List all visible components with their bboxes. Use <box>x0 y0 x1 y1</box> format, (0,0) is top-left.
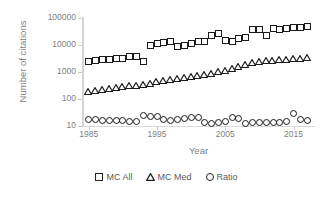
square-marker-icon <box>95 173 103 181</box>
x-tick-mark <box>89 126 90 130</box>
x-tick-mark <box>225 126 226 130</box>
y-tick-mark <box>78 18 82 19</box>
y-tick-label: 100 <box>62 94 76 103</box>
data-point-ratio <box>290 110 297 117</box>
y-tick-mark <box>78 72 82 73</box>
circle-marker-icon <box>206 173 214 181</box>
data-point-ratio <box>99 117 106 124</box>
data-point-ratio <box>304 117 311 124</box>
data-point-ratio <box>174 116 181 123</box>
legend-item-mc-all[interactable]: MC All <box>95 172 132 182</box>
x-tick-label: 2015 <box>274 129 314 139</box>
legend-label: MC All <box>106 172 132 182</box>
y-tick-mark <box>78 99 82 100</box>
y-tick-mark <box>78 126 82 127</box>
data-point-ratio <box>140 112 147 119</box>
x-tick-label: 1995 <box>137 129 177 139</box>
x-tick-mark <box>157 126 158 130</box>
data-point-ratio <box>147 113 154 120</box>
y-tick-mark <box>78 45 82 46</box>
data-point-ratio <box>215 119 222 126</box>
x-tick-mark <box>294 126 295 130</box>
data-point-mc-all <box>140 58 147 65</box>
y-tick-label: 10000 <box>52 40 76 49</box>
data-point-ratio <box>249 119 256 126</box>
data-point-ratio <box>256 119 263 126</box>
data-point-mc-all <box>304 23 311 30</box>
plot-area <box>82 18 314 126</box>
data-point-ratio <box>235 115 242 122</box>
legend-label: MC Med <box>157 172 191 182</box>
legend-item-ratio[interactable]: Ratio <box>206 172 238 182</box>
y-tick-label: 100000 <box>48 13 76 22</box>
data-point-ratio <box>297 116 304 123</box>
legend-label: Ratio <box>217 172 238 182</box>
data-point-ratio <box>106 117 113 124</box>
data-point-ratio <box>283 118 290 125</box>
legend-item-mc-med[interactable]: MC Med <box>146 172 191 182</box>
data-point-mc-all <box>242 34 249 41</box>
y-tick-label: 1000 <box>57 67 76 76</box>
x-tick-label: 1985 <box>69 129 109 139</box>
data-point-mc-all <box>263 32 270 39</box>
data-point-ratio <box>188 114 195 121</box>
citation-chart-figure: 10100100010000100000 Number of citations… <box>0 0 333 207</box>
data-point-ratio <box>133 118 140 125</box>
chart-legend: MC AllMC MedRatio <box>0 172 333 182</box>
data-point-mc-med <box>303 57 309 63</box>
data-point-ratio <box>222 118 229 125</box>
y-axis-title: Number of citations <box>17 2 28 122</box>
x-axis-title: Year <box>82 145 315 156</box>
data-point-ratio <box>181 115 188 122</box>
x-axis-line <box>82 126 315 127</box>
triangle-marker-icon <box>146 173 154 181</box>
x-tick-label: 2005 <box>205 129 245 139</box>
data-point-ratio <box>263 119 270 126</box>
